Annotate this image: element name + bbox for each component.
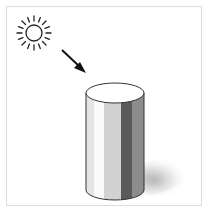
sun-icon	[17, 16, 51, 50]
arrow-icon	[62, 50, 86, 73]
cylinder	[86, 80, 144, 200]
diagram-canvas	[0, 0, 208, 213]
cylinder-top	[86, 83, 144, 103]
